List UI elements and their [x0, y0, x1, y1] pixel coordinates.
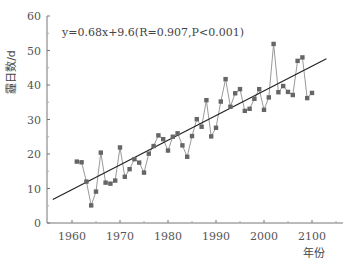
- data-point-marker: [84, 179, 88, 183]
- data-point-marker: [276, 90, 280, 94]
- data-point-marker: [156, 133, 160, 137]
- y-tick-label: 0: [34, 217, 41, 230]
- data-point-marker: [171, 135, 175, 139]
- y-tick-label: 30: [27, 114, 41, 127]
- data-point-marker: [247, 107, 251, 111]
- x-tick-label: 2000: [250, 230, 278, 243]
- data-point-marker: [190, 134, 194, 138]
- data-point-marker: [195, 117, 199, 121]
- axes: 0102030405060196019701980199020002100: [27, 10, 343, 243]
- data-point-marker: [166, 148, 170, 152]
- data-point-marker: [291, 93, 295, 97]
- data-point-marker: [252, 97, 256, 101]
- data-point-marker: [118, 145, 122, 149]
- data-point-marker: [142, 170, 146, 174]
- data-point-marker: [233, 91, 237, 95]
- data-point-marker: [305, 96, 309, 100]
- data-point-marker: [75, 159, 79, 163]
- data-point-marker: [79, 160, 83, 164]
- regression-equation: y=0.68x+9.6(R=0.907,P<0.001): [61, 26, 244, 39]
- data-point-marker: [94, 189, 98, 193]
- data-point-marker: [214, 126, 218, 130]
- data-point-marker: [185, 155, 189, 159]
- x-axis-title: 年份: [303, 246, 325, 260]
- data-point-marker: [238, 87, 242, 91]
- x-tick-label: 1960: [58, 230, 86, 243]
- data-point-marker: [228, 105, 232, 109]
- data-point-marker: [204, 98, 208, 102]
- data-point-marker: [199, 125, 203, 129]
- data-point-marker: [137, 160, 141, 164]
- data-point-marker: [310, 91, 314, 95]
- data-point-marker: [123, 175, 127, 179]
- data-point-marker: [257, 87, 261, 91]
- x-tick-label: 2100: [298, 230, 326, 243]
- y-tick-label: 20: [27, 148, 41, 161]
- x-tick-label: 1970: [106, 230, 134, 243]
- data-point-marker: [262, 108, 266, 112]
- data-point-marker: [99, 150, 103, 154]
- y-tick-label: 40: [27, 79, 41, 92]
- data-point-marker: [108, 181, 112, 185]
- data-point-marker: [89, 203, 93, 207]
- data-point-marker: [267, 95, 271, 99]
- data-point-marker: [295, 59, 299, 63]
- y-tick-label: 50: [27, 45, 41, 58]
- x-tick-label: 1990: [202, 230, 230, 243]
- y-axis-title: 霾日数/d: [5, 50, 18, 94]
- trend-line: [53, 59, 327, 200]
- data-point-marker: [127, 167, 131, 171]
- data-point-marker: [103, 180, 107, 184]
- data-point-marker: [209, 134, 213, 138]
- data-point-marker: [175, 131, 179, 135]
- data-point-marker: [223, 77, 227, 81]
- data-point-marker: [113, 178, 117, 182]
- data-point-marker: [300, 55, 304, 59]
- data-point-marker: [132, 157, 136, 161]
- data-point-marker: [271, 42, 275, 46]
- data-point-marker: [147, 151, 151, 155]
- y-tick-label: 60: [27, 10, 41, 23]
- x-tick-label: 1980: [154, 230, 182, 243]
- data-point-marker: [281, 84, 285, 88]
- data-point-marker: [161, 137, 165, 141]
- haze-days-line: [77, 44, 312, 206]
- data-point-marker: [219, 99, 223, 103]
- data-series: [53, 42, 327, 208]
- data-point-marker: [243, 109, 247, 113]
- y-tick-label: 10: [27, 183, 41, 196]
- haze-days-chart: 0102030405060196019701980199020002100 y=…: [0, 0, 343, 268]
- data-point-marker: [151, 144, 155, 148]
- data-point-marker: [180, 143, 184, 147]
- data-point-marker: [286, 90, 290, 94]
